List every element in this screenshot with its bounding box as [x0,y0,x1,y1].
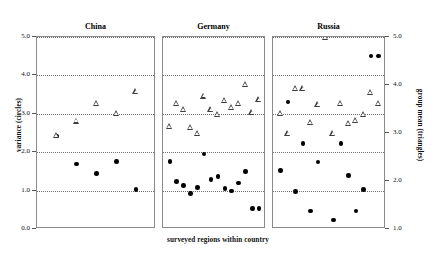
data-point-triangle [201,93,207,99]
data-point-triangle [315,101,321,107]
data-point-triangle [277,110,283,116]
panel-russia [272,36,385,228]
gridline [273,37,384,38]
data-point-circle [331,218,336,223]
data-point-circle [94,171,99,176]
y-axis-left-tick-label: 3.0 [8,109,30,117]
data-point-triangle [208,106,214,112]
y-axis-left-tick-label: 1.0 [8,186,30,194]
data-point-circle [257,206,262,211]
y-axis-left-tick-label: 2.0 [8,147,30,155]
data-point-triangle [221,97,227,103]
data-point-triangle [180,106,186,112]
y-axis-left-tick-label: 5.0 [8,32,30,40]
data-point-circle [339,141,344,146]
data-point-circle [369,54,374,59]
data-point-circle [202,152,207,157]
data-point-circle [216,174,221,179]
data-point-triangle [292,85,298,91]
data-point-triangle [285,130,291,136]
data-point-triangle [330,130,336,136]
data-point-triangle [113,110,119,116]
gridline [37,75,154,76]
data-point-triangle [187,124,193,130]
data-point-circle [316,160,321,165]
data-point-circle [376,54,381,59]
data-point-circle [114,159,119,164]
data-point-triangle [337,100,343,106]
y-axis-right-tick-label: 1.0 [393,224,415,232]
data-point-circle [223,186,228,191]
y-axis-right-tick-label: 5.0 [393,32,415,40]
scatter-chart: variance (circles) group mean (triangles… [0,0,437,262]
gridline [273,191,384,192]
data-point-circle [181,183,186,188]
data-point-triangle [53,132,59,138]
data-point-triangle [256,96,262,102]
data-point-triangle [242,81,248,87]
data-point-circle [74,162,79,167]
data-point-triangle [215,111,221,117]
data-point-triangle [300,85,306,91]
data-point-circle [286,100,291,105]
data-point-triangle [173,100,179,106]
data-point-triangle [322,36,328,40]
data-point-triangle [375,100,381,106]
data-point-triangle [345,120,351,126]
data-point-triangle [73,118,79,124]
gridline [273,152,384,153]
data-point-triangle [133,88,139,94]
data-point-triangle [166,123,172,129]
y-axis-right-title: group mean (triangles) [416,65,424,185]
y-axis-right-tick-mark [385,180,389,181]
y-axis-right-tick-mark [385,228,389,229]
gridline [273,75,384,76]
panel-germany [162,36,265,228]
y-axis-left-tick-label: 0.0 [8,224,30,232]
data-point-circle [323,227,328,228]
data-point-circle [243,169,248,174]
data-point-circle [354,209,359,214]
data-point-triangle [352,117,358,123]
data-point-circle [195,185,200,190]
gridline [163,75,264,76]
y-axis-left-tick-mark [32,228,36,229]
data-point-circle [361,187,366,192]
y-axis-right-tick-mark [385,132,389,133]
gridline [37,37,154,38]
data-point-circle [293,189,298,194]
data-point-triangle [194,130,200,136]
data-point-triangle [228,104,234,110]
y-axis-left-title: variance (circles) [15,65,23,185]
data-point-circle [188,191,193,196]
gridline [163,37,264,38]
data-point-circle [308,209,313,214]
gridline [273,114,384,115]
y-axis-right-tick-label: 3.0 [393,128,415,136]
y-axis-right-tick-label: 4.0 [393,80,415,88]
y-axis-right-tick-mark [385,36,389,37]
data-point-circle [236,181,241,186]
data-point-triangle [368,89,374,95]
data-point-circle [229,189,234,194]
gridline [163,152,264,153]
data-point-circle [346,173,351,178]
panel-title-china: China [36,22,155,31]
data-point-triangle [360,111,366,117]
gridline [37,152,154,153]
panel-china [36,36,155,228]
data-point-circle [174,179,179,184]
data-point-circle [168,159,173,164]
data-point-triangle [235,100,241,106]
y-axis-right-tick-label: 2.0 [393,176,415,184]
data-point-circle [301,141,306,146]
gridline [37,114,154,115]
data-point-triangle [249,109,255,115]
y-axis-left-tick-label: 4.0 [8,70,30,78]
data-point-circle [250,206,255,211]
panel-title-germany: Germany [162,22,265,31]
data-point-triangle [93,100,99,106]
x-axis-title: surveyed regions within country [128,236,308,245]
data-point-triangle [307,119,313,125]
y-axis-right-tick-mark [385,84,389,85]
